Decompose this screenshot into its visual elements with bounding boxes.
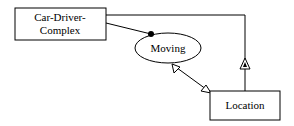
node-moving[interactable]: Moving [135,33,201,63]
node-label: Car-Driver- [34,11,86,23]
node-car-driver-complex[interactable]: Car-Driver- Complex [15,8,106,40]
open-arrowhead-icon [172,64,180,73]
node-location[interactable]: Location [210,91,280,120]
filled-dot-marker-icon [148,31,154,37]
diagram-canvas: Car-Driver- Complex Moving Location [0,0,294,126]
edge-car-to-moving [106,23,151,34]
node-label: Moving [151,42,186,54]
node-label: Complex [40,24,81,36]
triangle-marker-icon [240,58,250,69]
node-label: Location [225,99,265,111]
